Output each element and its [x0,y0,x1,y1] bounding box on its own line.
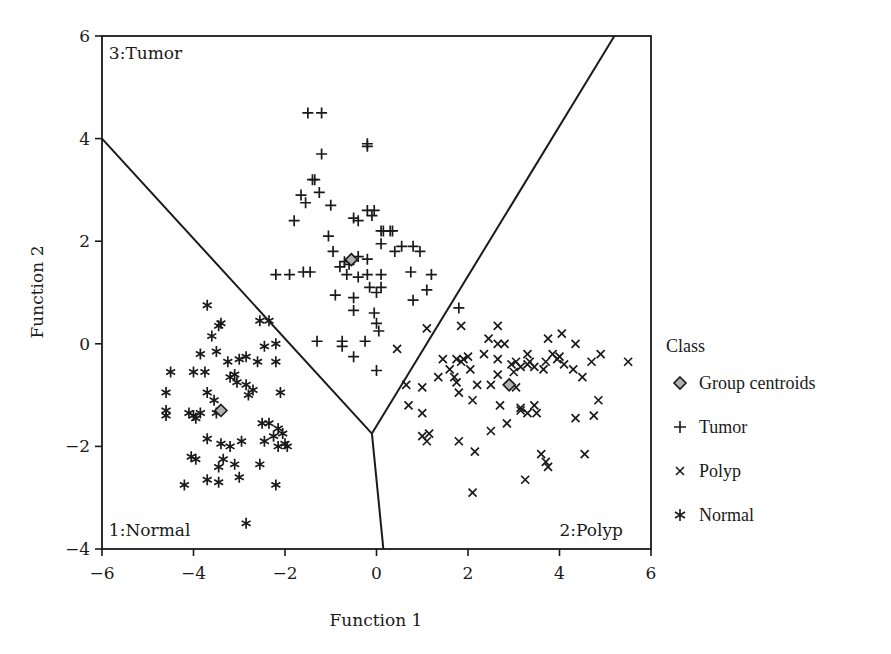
x-marker [446,365,454,373]
plus-marker [314,187,325,198]
plus-marker [325,200,336,211]
plus-marker [362,141,373,152]
x-marker [558,330,566,338]
asterisk-marker [203,433,212,444]
x-marker [455,437,463,445]
y-tick-label: 6 [79,26,90,46]
x-marker [569,365,577,373]
x-marker [521,476,529,484]
legend-label: Normal [699,505,754,526]
diamond-icon [669,372,691,394]
asterisk-marker [276,387,285,398]
x-marker [537,450,545,458]
series-normal [162,300,292,529]
asterisk-marker [264,418,273,429]
x-marker [588,358,596,366]
x-marker [523,350,531,358]
plus-marker [270,269,281,280]
x-marker [457,322,465,330]
x-marker [494,322,502,330]
plus-marker [330,290,341,301]
x-tick-label: −2 [272,563,297,583]
plus-marker [369,205,380,216]
x-marker [473,381,481,389]
x-marker [496,401,504,409]
x-marker [402,381,410,389]
plus-marker [376,238,387,249]
plus-marker [426,269,437,280]
x-marker [572,340,580,348]
group-centroids [215,254,515,417]
plus-marker [453,302,464,313]
plus-marker [408,241,419,252]
x-marker [503,419,511,427]
series-polyp [393,322,632,497]
plus-marker [387,225,398,236]
plus-marker [323,231,334,242]
asterisk-marker [269,431,278,442]
x-marker [523,360,531,368]
plus-marker [376,269,387,280]
region-label: 3:Tumor [109,43,183,63]
x-marker [494,371,502,379]
y-tick-label: 2 [79,231,90,251]
plus-marker [371,318,382,329]
asterisk-marker [253,356,262,367]
plus-marker [289,215,300,226]
asterisk-marker [166,367,175,378]
x-marker [434,373,442,381]
x-marker [539,365,547,373]
x-marker [560,360,568,368]
asterisk-marker [203,474,212,485]
x-marker [439,355,447,363]
x-marker [469,489,477,497]
plus-marker [348,305,359,316]
x-marker [471,448,479,456]
plus-marker [405,266,416,277]
plus-marker [309,174,320,185]
asterisk-marker [271,479,280,490]
asterisk-marker [255,315,264,326]
plus-marker [376,225,387,236]
plus-marker [337,341,348,352]
x-tick-label: 4 [554,563,565,583]
y-tick-label: −2 [65,436,90,456]
plus-marker [414,246,425,257]
asterisk-marker [237,436,246,447]
x-marker [487,381,495,389]
plus-marker [364,282,375,293]
x-marker [494,355,502,363]
asterisk-icon [669,504,691,526]
legend: Class Group centroids Tumor Polyp Normal [666,336,815,547]
plus-marker [421,284,432,295]
x-tick-label: 0 [371,563,382,583]
legend-label: Group centroids [699,373,815,394]
data-points [162,107,633,528]
boundary-line-tumor-normal [102,139,372,434]
asterisk-marker [235,472,244,483]
plus-marker [396,241,407,252]
x-marker [494,340,502,348]
x-tick-label: 2 [463,563,474,583]
x-marker [423,324,431,332]
y-tick-label: 0 [79,334,90,354]
x-tick-label: 6 [646,563,657,583]
plus-marker [348,351,359,362]
x-marker [487,427,495,435]
plus-marker [305,266,316,277]
plus-marker [362,269,373,280]
plus-marker [373,325,384,336]
region-label: 2:Polyp [560,520,624,540]
x-marker [425,430,433,438]
asterisk-marker [214,461,223,472]
x-marker [544,335,552,343]
plus-icon [669,416,691,438]
legend-item-group-centroids: Group centroids [666,371,815,395]
decision-boundaries [102,36,614,549]
plus-marker [353,272,364,283]
x-tick-label: −6 [89,563,114,583]
x-marker [501,340,509,348]
plus-marker [369,308,380,319]
x-marker [423,437,431,445]
asterisk-marker [258,418,267,429]
